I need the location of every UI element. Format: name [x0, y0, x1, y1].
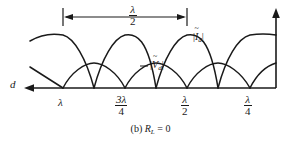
- current-magnitude-label: |I~d|: [193, 32, 204, 44]
- caption-relation: = 0: [155, 123, 171, 134]
- current-label-bar-right: |: [202, 31, 204, 42]
- standing-wave-figure: λ 2 d λ 3λ 4 λ 2 λ 4 |I~d| |V~d| (b) RL …: [0, 0, 301, 146]
- tick-label-3l4-denominator: 4: [115, 105, 127, 117]
- tick-label-lambda-half: λ 2: [181, 94, 189, 117]
- tilde-accent: ~: [153, 53, 157, 61]
- tick-label-l2-numerator: λ: [181, 94, 189, 105]
- tilde-accent: ~: [195, 25, 199, 33]
- lambda-half-denominator: 2: [129, 15, 137, 27]
- d-axis-label: d: [10, 79, 16, 90]
- voltage-magnitude-label: |V~d|: [150, 60, 164, 72]
- voltage-label-symbol: V~: [152, 59, 158, 70]
- dimension-arrowhead-right: [177, 14, 186, 20]
- dimension-arrowhead-left: [64, 14, 73, 20]
- lambda-half-dimension-label: λ 2: [129, 4, 137, 27]
- tick-label-lambda-text: λ: [58, 96, 63, 108]
- tick-label-lambda-quarter: λ 4: [244, 94, 252, 117]
- tick-label-three-lambda-quarters: 3λ 4: [115, 94, 127, 117]
- tick-label-3l4-numerator: 3λ: [115, 94, 127, 105]
- vertical-axis-arrowhead: [272, 8, 280, 18]
- vertical-axis: [272, 8, 280, 88]
- caption-prefix: (b): [131, 123, 145, 134]
- tick-label-l2-denominator: 2: [181, 105, 189, 117]
- current-label-symbol: I~: [195, 31, 198, 42]
- tick-label-l4-denominator: 4: [244, 105, 252, 117]
- lambda-half-numerator: λ: [129, 4, 137, 15]
- figure-caption: (b) RL = 0: [0, 124, 301, 136]
- tick-label-lambda: λ: [58, 97, 63, 108]
- voltage-label-bar-right: |: [162, 59, 164, 70]
- tick-label-l4-numerator: λ: [244, 94, 252, 105]
- d-axis-arrowhead: [24, 84, 34, 92]
- lambda-half-dimension: [63, 8, 187, 26]
